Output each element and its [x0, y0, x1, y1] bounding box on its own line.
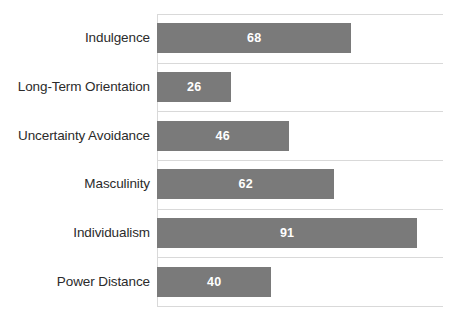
plot-area: 682646629140 [157, 14, 443, 306]
bar-value-label: 46 [157, 121, 289, 151]
bar-value-label: 62 [157, 169, 334, 199]
bar[interactable]: 46 [157, 121, 289, 151]
bar-value-label: 68 [157, 23, 351, 53]
bar-value-label: 91 [157, 218, 417, 248]
category-label: Individualism [0, 226, 150, 240]
category-label: Uncertainty Avoidance [0, 129, 150, 143]
bar[interactable]: 40 [157, 267, 271, 297]
bar[interactable]: 62 [157, 169, 334, 199]
bar[interactable]: 91 [157, 218, 417, 248]
category-label: Power Distance [0, 275, 150, 289]
category-label: Masculinity [0, 177, 150, 191]
gridline [157, 306, 443, 307]
bar[interactable]: 68 [157, 23, 351, 53]
bar-chart: IndulgenceLong-Term OrientationUncertain… [0, 0, 464, 328]
category-label: Long-Term Orientation [0, 80, 150, 94]
bar-value-label: 40 [157, 267, 271, 297]
bar[interactable]: 26 [157, 72, 231, 102]
bar-value-label: 26 [157, 72, 231, 102]
category-label: Indulgence [0, 31, 150, 45]
category-axis-labels: IndulgenceLong-Term OrientationUncertain… [0, 14, 150, 306]
